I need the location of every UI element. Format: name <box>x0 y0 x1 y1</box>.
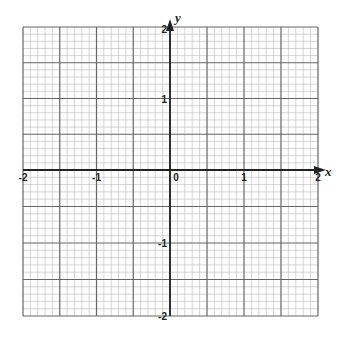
x-tick-label: 1 <box>241 172 247 183</box>
y-tick-label: 1 <box>161 94 167 105</box>
y-axis-label: y <box>173 10 181 25</box>
x-tick-label: -2 <box>19 172 28 183</box>
x-tick-label: -1 <box>92 172 101 183</box>
y-tick-label: -1 <box>158 238 167 249</box>
y-tick-label: -2 <box>158 311 167 322</box>
x-tick-label: 0 <box>173 172 179 183</box>
coordinate-grid: -2-101221-1-2 x y <box>0 0 350 340</box>
x-axis-label: x <box>324 164 332 179</box>
y-axis-arrow <box>166 19 174 31</box>
y-tick-label: 2 <box>161 24 167 35</box>
x-tick-label: 2 <box>315 172 321 183</box>
